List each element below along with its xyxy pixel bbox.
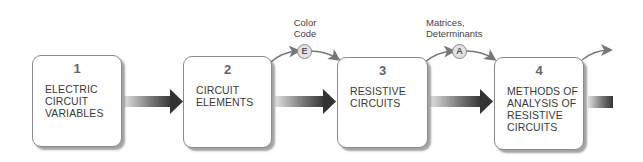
chapter-box-1: 1 ELECTRIC CIRCUIT VARIABLES: [32, 55, 122, 147]
side-topic-note-color-code: Color Code: [287, 17, 323, 39]
flow-arrow-2-3: [275, 89, 336, 114]
chapter-number: 4: [495, 63, 583, 78]
flow-arrow-4-next: [588, 96, 613, 108]
chapter-flow-diagram: 1 ELECTRIC CIRCUIT VARIABLES 2 CIRCUIT E…: [0, 0, 643, 162]
curve-arrow-2-to-E: [271, 51, 298, 62]
flow-arrow-1-2: [124, 89, 183, 114]
curve-arrow-A-to-4: [466, 51, 494, 59]
chapter-number: 2: [184, 62, 271, 77]
flow-arrow-3-4: [430, 89, 493, 114]
chapter-box-2: 2 CIRCUIT ELEMENTS: [183, 56, 272, 148]
appendix-badge-a: A: [452, 44, 467, 59]
chapter-box-4: 4 METHODS OF ANALYSIS OF RESISTIVE CIRCU…: [494, 57, 584, 150]
curve-arrow-E-to-3: [310, 51, 338, 59]
curve-arrow-4-next: [582, 50, 610, 60]
curve-arrow-3-to-A: [425, 51, 453, 62]
chapter-title: RESISTIVE CIRCUITS: [350, 85, 423, 109]
chapter-number: 1: [33, 61, 121, 76]
side-topic-note-matrices: Matrices, Determinants: [426, 17, 500, 39]
chapter-number: 3: [338, 63, 427, 78]
appendix-badge-e: E: [297, 44, 312, 59]
chapter-title: CIRCUIT ELEMENTS: [196, 84, 267, 108]
chapter-title: ELECTRIC CIRCUIT VARIABLES: [45, 83, 117, 119]
chapter-box-3: 3 RESISTIVE CIRCUITS: [337, 57, 428, 148]
chapter-title: METHODS OF ANALYSIS OF RESISTIVE CIRCUIT…: [507, 85, 579, 133]
